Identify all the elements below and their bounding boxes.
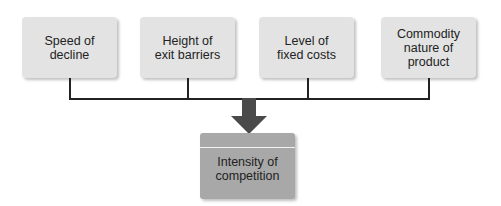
label-line: competition	[200, 169, 295, 183]
box-divider	[200, 147, 295, 148]
label-line: Intensity of	[200, 155, 295, 169]
label-line: product	[397, 55, 460, 69]
label-line: Speed of	[44, 34, 94, 48]
connector-vertical-4	[428, 78, 430, 99]
output-box-intensity-of-competition: Intensity of competition	[200, 133, 295, 199]
input-box-level-of-fixed-costs: Level of fixed costs	[259, 17, 354, 78]
connector-vertical-2	[187, 78, 189, 99]
label-line: nature of	[397, 41, 460, 55]
down-arrow-icon	[229, 98, 269, 136]
input-label: Speed of decline	[44, 34, 94, 62]
input-box-speed-of-decline: Speed of decline	[22, 17, 117, 78]
input-box-height-of-exit-barriers: Height of exit barriers	[140, 17, 235, 78]
connector-vertical-1	[69, 78, 71, 99]
label-line: Height of	[155, 34, 220, 48]
connector-vertical-3	[307, 78, 309, 99]
label-line: decline	[44, 48, 94, 62]
label-line: Level of	[277, 34, 336, 48]
label-line: Commodity	[397, 27, 460, 41]
output-label: Intensity of competition	[200, 155, 295, 183]
label-line: exit barriers	[155, 48, 220, 62]
input-label: Height of exit barriers	[155, 34, 220, 62]
input-label: Commodity nature of product	[397, 27, 460, 69]
label-line: fixed costs	[277, 48, 336, 62]
input-box-commodity-nature-of-product: Commodity nature of product	[381, 17, 476, 78]
input-label: Level of fixed costs	[277, 34, 336, 62]
